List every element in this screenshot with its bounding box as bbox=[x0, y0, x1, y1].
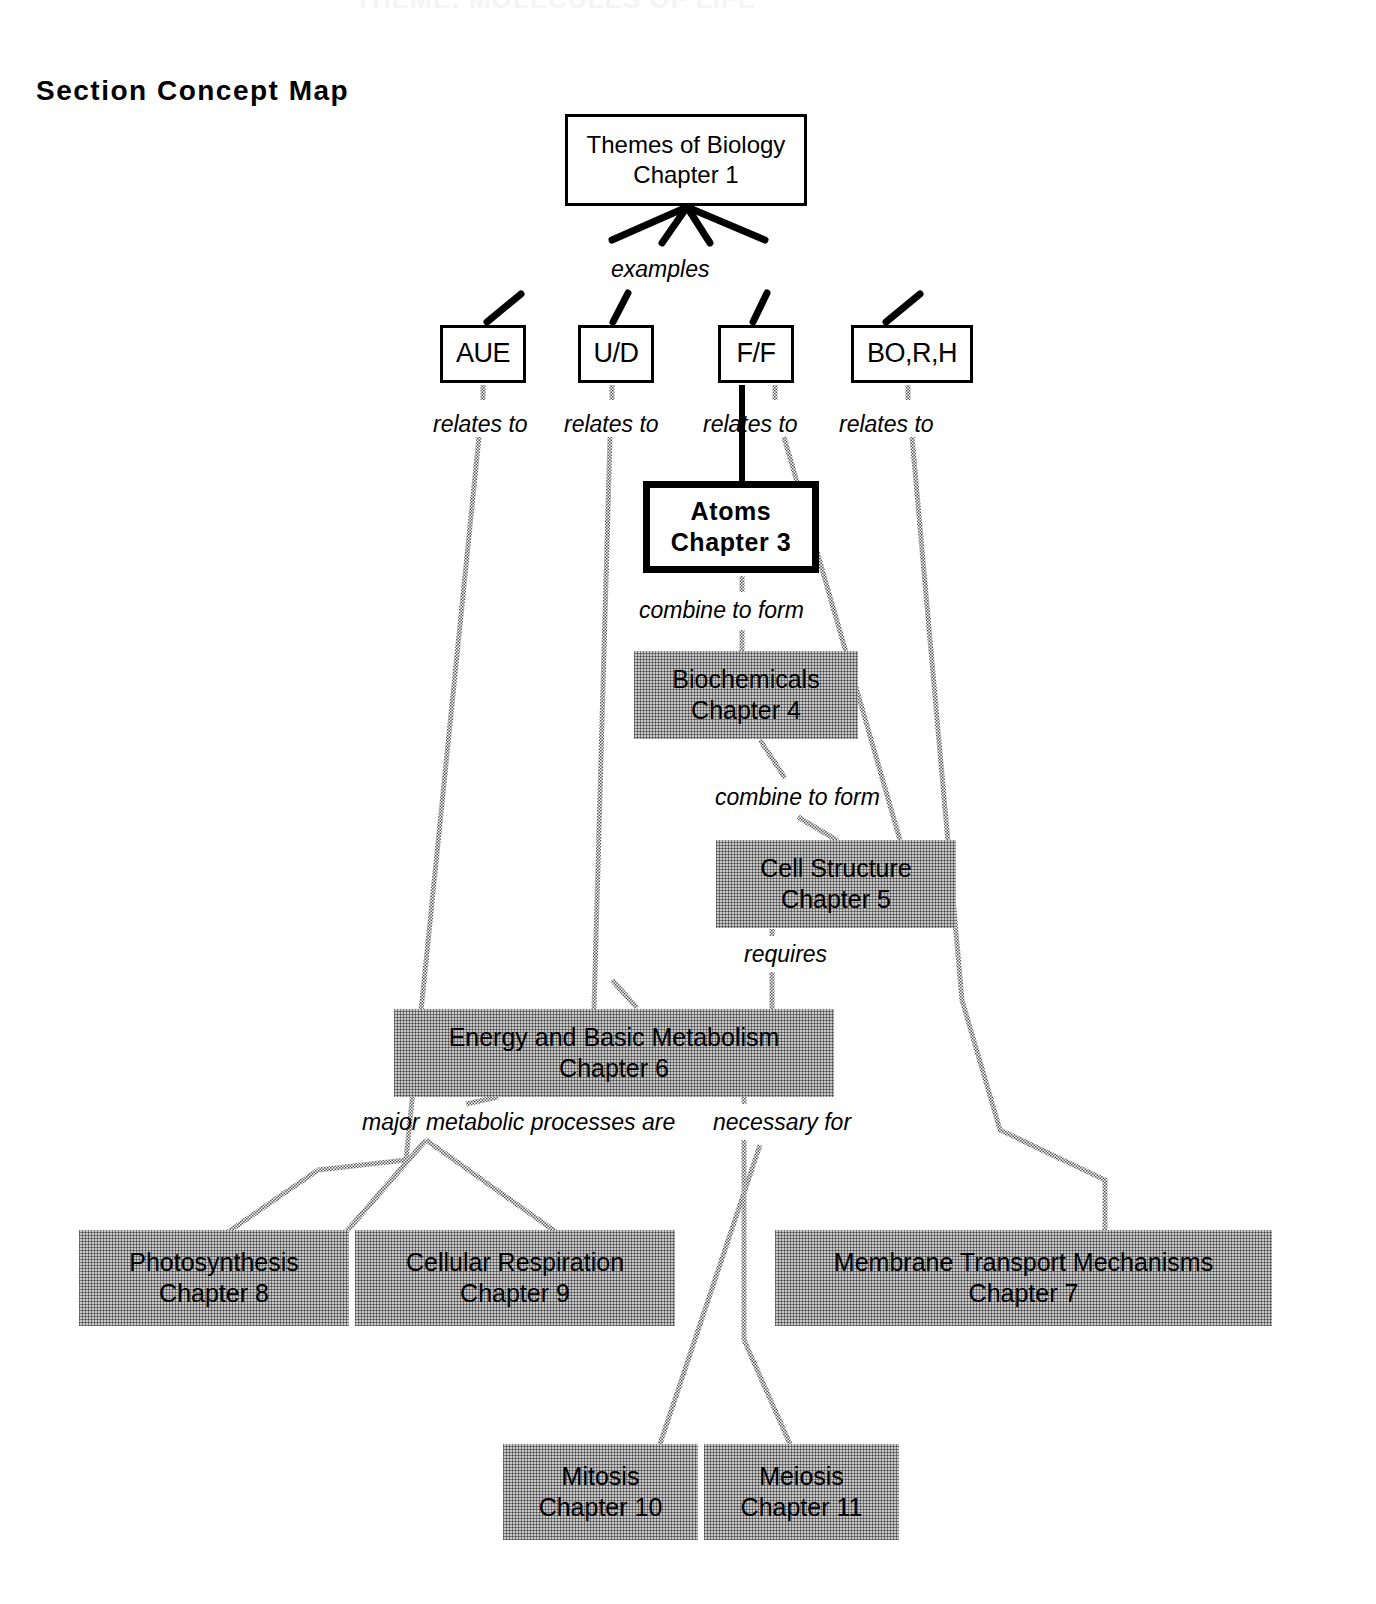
node-line2: Chapter 11 bbox=[741, 1492, 863, 1523]
node-line1: Photosynthesis bbox=[129, 1247, 299, 1278]
node-line1: Energy and Basic Metabolism bbox=[449, 1022, 780, 1053]
concept-map-page: THEME: MOLECULES OF LIFE Section Concept… bbox=[0, 0, 1376, 1604]
node-line1: U/D bbox=[594, 337, 639, 371]
node-line2: Chapter 6 bbox=[559, 1053, 669, 1084]
examples-fan bbox=[612, 207, 765, 243]
node-biochemicals[interactable]: Biochemicals Chapter 4 bbox=[634, 651, 858, 739]
node-energy-and-basic-metabolism[interactable]: Energy and Basic Metabolism Chapter 6 bbox=[394, 1009, 834, 1097]
node-line1: AUE bbox=[456, 337, 510, 371]
node-line2: Chapter 8 bbox=[159, 1278, 269, 1309]
node-line1: Membrane Transport Mechanisms bbox=[834, 1247, 1213, 1278]
node-photosynthesis[interactable]: Photosynthesis Chapter 8 bbox=[79, 1230, 349, 1326]
edge-label-relates-to-borh: relates to bbox=[839, 411, 934, 438]
edge-label-relates-to-aue: relates to bbox=[433, 411, 528, 438]
node-membrane-transport-mechanisms[interactable]: Membrane Transport Mechanisms Chapter 7 bbox=[775, 1230, 1272, 1326]
node-cellular-respiration[interactable]: Cellular Respiration Chapter 9 bbox=[355, 1230, 675, 1326]
node-themes-of-biology[interactable]: Themes of Biology Chapter 1 bbox=[565, 114, 807, 206]
section-title: Section Concept Map bbox=[36, 75, 349, 107]
edge-label-examples: examples bbox=[611, 256, 709, 283]
node-line1: Themes of Biology bbox=[587, 130, 786, 160]
edge-label-requires: requires bbox=[744, 941, 827, 968]
page-top-title: THEME: MOLECULES OF LIFE bbox=[355, 0, 756, 15]
node-ff[interactable]: F/F bbox=[718, 325, 794, 383]
edge-label-combine-to-form-2: combine to form bbox=[715, 784, 880, 811]
node-line1: Cellular Respiration bbox=[406, 1247, 624, 1278]
edge-label-necessary-for: necessary for bbox=[713, 1109, 851, 1136]
node-line1: F/F bbox=[737, 337, 776, 371]
node-line2: Chapter 3 bbox=[671, 527, 792, 558]
node-line1: Meiosis bbox=[759, 1461, 844, 1492]
node-aue[interactable]: AUE bbox=[440, 325, 526, 383]
node-line1: Atoms bbox=[691, 496, 772, 527]
node-bo-r-h[interactable]: BO,R,H bbox=[851, 325, 973, 383]
node-line2: Chapter 1 bbox=[633, 160, 738, 190]
node-meiosis[interactable]: Meiosis Chapter 11 bbox=[704, 1444, 899, 1540]
node-line1: Biochemicals bbox=[672, 664, 819, 695]
node-ud[interactable]: U/D bbox=[578, 325, 654, 383]
node-line2: Chapter 5 bbox=[781, 884, 891, 915]
edge-label-combine-to-form-1: combine to form bbox=[639, 597, 804, 624]
node-line1: BO,R,H bbox=[867, 337, 957, 371]
node-line1: Cell Structure bbox=[760, 853, 911, 884]
node-mitosis[interactable]: Mitosis Chapter 10 bbox=[503, 1444, 698, 1540]
node-line2: Chapter 4 bbox=[691, 695, 801, 726]
node-line2: Chapter 7 bbox=[969, 1278, 1079, 1309]
node-cell-structure[interactable]: Cell Structure Chapter 5 bbox=[716, 840, 956, 928]
node-line1: Mitosis bbox=[562, 1461, 640, 1492]
edge-label-major-metabolic-processes-are: major metabolic processes are bbox=[362, 1109, 675, 1136]
node-line2: Chapter 9 bbox=[460, 1278, 570, 1309]
node-line2: Chapter 10 bbox=[539, 1492, 663, 1523]
edge-label-relates-to-ud: relates to bbox=[564, 411, 659, 438]
examples-stubs bbox=[487, 293, 920, 322]
edge-label-relates-to-ff: relates to bbox=[703, 411, 798, 438]
connector-layer bbox=[0, 0, 1376, 1604]
node-atoms[interactable]: Atoms Chapter 3 bbox=[643, 481, 819, 573]
